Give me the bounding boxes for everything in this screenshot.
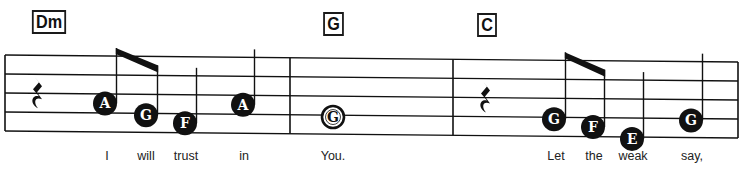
note-g: G xyxy=(134,103,158,127)
staff-line xyxy=(5,112,738,119)
note-a: A xyxy=(93,91,117,115)
chord-symbol-dm: Dm xyxy=(32,10,66,34)
note-g: G xyxy=(542,107,566,131)
lyric-syllable: the xyxy=(585,149,602,163)
note-name-label: F xyxy=(588,119,598,135)
notes: AGFAGGFEG xyxy=(93,91,703,150)
staff-line xyxy=(5,55,738,62)
staff-line xyxy=(5,74,738,81)
lyric-syllable: You. xyxy=(321,149,346,163)
eighth-note-beam xyxy=(116,48,158,72)
note-name-label: F xyxy=(180,115,190,131)
note-g: G xyxy=(322,106,344,128)
lyric-syllable: weak xyxy=(618,149,647,163)
note-name-label: E xyxy=(627,131,638,147)
staff-lines xyxy=(5,55,738,138)
music-staff: AGFAGGFEG xyxy=(0,0,745,171)
lyric-syllable: Let xyxy=(547,149,564,163)
lyric-syllable: say, xyxy=(681,149,703,163)
chord-symbol-c: C xyxy=(477,13,497,37)
note-name-label: G xyxy=(140,107,152,123)
lyric-syllable: I xyxy=(105,149,108,163)
chord-symbol-g: G xyxy=(323,12,344,36)
lyric-syllable: in xyxy=(239,149,249,163)
stems xyxy=(117,48,703,139)
beams xyxy=(116,48,605,77)
note-name-label: A xyxy=(99,95,112,111)
note-name-label: A xyxy=(237,97,250,113)
note-a: A xyxy=(231,93,255,117)
note-name-label: G xyxy=(685,112,697,128)
lyric-syllable: will xyxy=(137,149,154,163)
note-name-label: G xyxy=(548,111,560,127)
eighth-note-beam xyxy=(565,52,605,76)
lyric-syllable: trust xyxy=(174,149,198,163)
note-f: F xyxy=(173,111,197,135)
note-name-label: G xyxy=(327,109,339,125)
note-g: G xyxy=(679,108,703,132)
note-e: E xyxy=(620,127,644,151)
note-f: F xyxy=(581,115,605,139)
